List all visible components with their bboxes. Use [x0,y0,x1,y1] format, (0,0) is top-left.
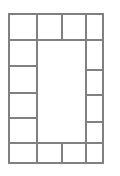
grid-cell-right-4 [86,122,103,143]
grid-cell-bottom-2 [37,143,62,163]
grid-cell-left-2 [9,66,37,93]
grid-cell-right-2 [86,70,103,95]
grid-cell-top-3 [62,14,86,40]
grid-cell-left-1 [9,40,37,66]
diagram-canvas [0,0,120,176]
grid-frame-diagram [0,0,120,176]
grid-cell-right-3 [86,95,103,122]
grid-cell-center [37,40,86,143]
grid-cell-left-4 [9,118,37,143]
grid-cell-right-1 [86,40,103,70]
grid-cell-top-4 [86,14,103,40]
grid-cell-bottom-3 [62,143,86,163]
grid-cell-top-1 [9,14,37,40]
grid-cell-bottom-1 [9,143,37,163]
grid-cell-bottom-4 [86,143,103,163]
cell-fill-group [9,14,103,163]
grid-cell-left-3 [9,93,37,118]
grid-cell-top-2 [37,14,62,40]
